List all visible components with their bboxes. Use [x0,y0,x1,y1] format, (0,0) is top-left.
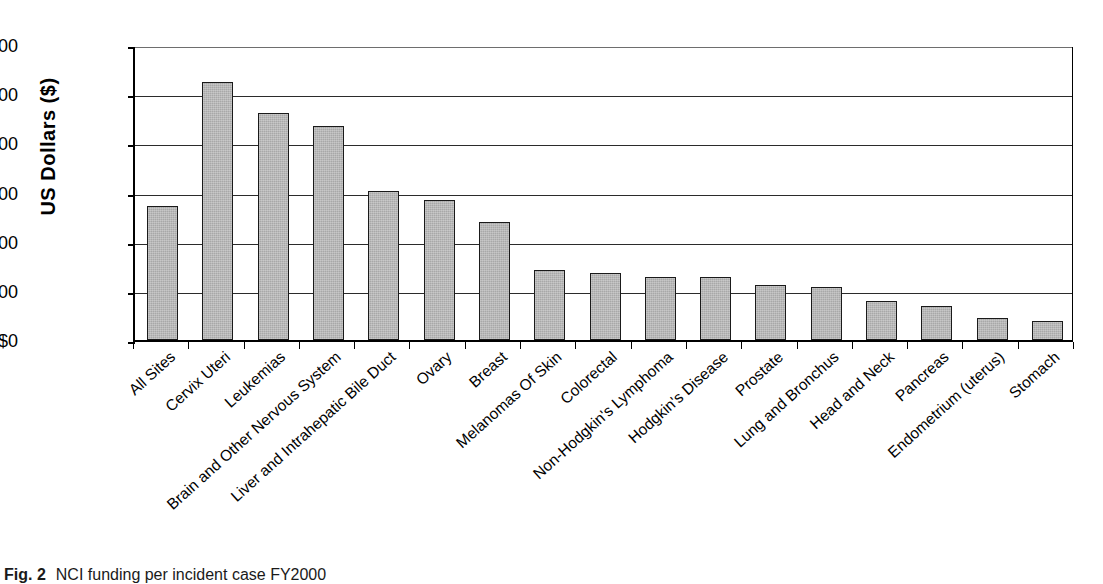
x-tick-label-text: Hodgkin's Disease [625,348,732,447]
bar [700,277,731,340]
bar [147,206,178,340]
x-tick-label-text: Breast [465,348,510,391]
bar [479,222,510,340]
y-tick-mark [128,293,135,295]
y-tick-label: $3,000 [0,184,18,205]
x-tick-label: Breast [465,348,510,391]
bar [313,126,344,340]
x-axis-tick-labels: All SitesCervix UteriLeukemiasBrain and … [133,348,1073,548]
bar [590,273,621,340]
y-tick-label: $1,000 [0,282,18,303]
y-tick-label: $2,000 [0,233,18,254]
y-tick-mark [128,244,135,246]
figure-caption: Fig. 2NCI funding per incident case FY20… [4,566,326,584]
y-tick-label: $6,000 [0,36,18,57]
figure-caption-text: NCI funding per incident case FY2000 [56,566,326,583]
x-tick-label: Hodgkin's Disease [625,348,732,447]
bar [755,285,786,340]
y-tick-mark [128,145,135,147]
x-tick-label: Prostate [732,348,787,400]
figure-bar-chart: US Dollars ($) $0$1,000$2,000$3,000$4,00… [0,0,1103,584]
bar [645,277,676,340]
figure-number: Fig. 2 [4,566,46,583]
bar [921,306,952,340]
bar [202,82,233,340]
x-tick-label-text: All Sites [125,348,179,399]
x-tick-label-text: Melanomas Of Skin [453,348,566,452]
bar [866,301,897,340]
bar [258,113,289,340]
bar [368,191,399,340]
x-tick-label: Lung and Bronchus [730,348,842,451]
x-tick-label: All Sites [125,348,179,399]
y-tick-label: $0 [0,331,18,352]
bar [811,287,842,340]
y-tick-mark [128,96,135,98]
y-tick-mark [128,195,135,197]
x-tick-label-text: Prostate [732,348,787,400]
y-tick-mark [128,47,135,49]
x-tick-label: Melanomas Of Skin [453,348,566,452]
bar-series [135,47,1072,340]
x-tick-label: Stomach [1006,348,1064,402]
x-tick-label-text: Lung and Bronchus [730,348,842,451]
bar [534,270,565,340]
bar [1032,321,1063,340]
y-tick-label: $5,000 [0,85,18,106]
plot-area [133,47,1073,342]
y-axis-title: US Dollars ($) [37,37,60,257]
y-tick-label: $4,000 [0,134,18,155]
bar [977,318,1008,340]
x-tick-label-text: Stomach [1006,348,1064,402]
x-tick-label-text: Ovary [412,348,455,389]
x-tick-label: Ovary [412,348,455,389]
bar [424,200,455,340]
x-tick-mark [1073,342,1074,349]
